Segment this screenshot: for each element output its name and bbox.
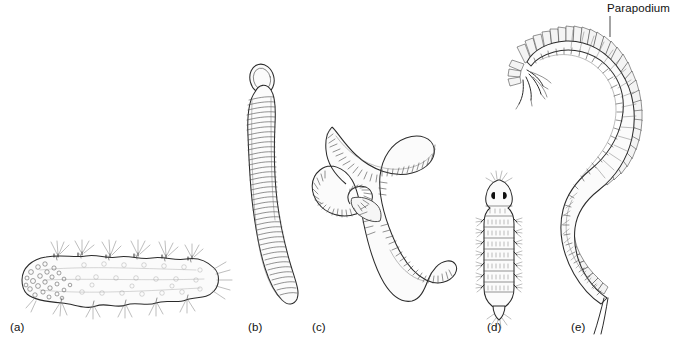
annelid-figure-svg: Parapodium (a) (b) (c) (d) (e) [0, 0, 676, 342]
panel-label-e: (e) [571, 321, 585, 333]
parapodium-label: Parapodium [607, 2, 670, 14]
panel-label-a: (a) [10, 321, 24, 333]
figure-canvas: Parapodium (a) (b) (c) (d) (e) [0, 0, 676, 342]
panel-label-b: (b) [248, 321, 262, 333]
panel-label-c: (c) [312, 321, 326, 333]
panel-label-d: (d) [487, 321, 501, 333]
